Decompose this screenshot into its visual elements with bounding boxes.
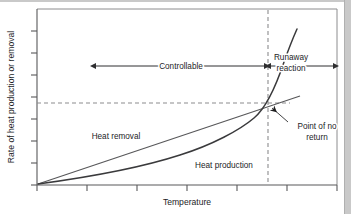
runaway-reaction-label-line1: Runaway [274,53,309,62]
runaway-reaction-label-line2: reaction [276,64,306,73]
controllable-label: Controllable [159,62,203,71]
heat-production-label: Heat production [195,161,253,170]
point-of-no-return-leader [272,108,288,122]
guide-lines [37,10,290,185]
heat-production-curve [38,29,297,184]
y-axis-label: Rate of heat production or removal [6,31,16,163]
heat-removal-curve [38,96,300,184]
x-axis-ticks [37,185,337,191]
figure-container: Rate of heat production or removal Tempe… [0,0,351,214]
heat-balance-chart: Rate of heat production or removal Tempe… [0,0,351,214]
point-of-no-return-label-line1: Point of no [297,122,337,131]
x-axis-label: Temperature [163,197,211,207]
heat-removal-label: Heat removal [92,132,141,141]
y-axis-ticks [31,31,37,185]
point-of-no-return-label-line2: return [306,133,328,142]
plot-frame [37,9,337,185]
